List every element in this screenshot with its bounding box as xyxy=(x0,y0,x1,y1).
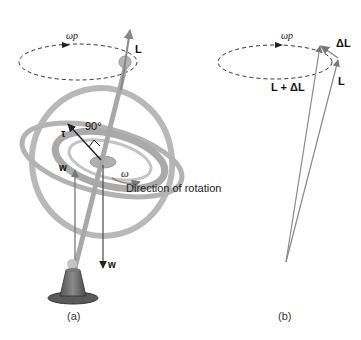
precession-arrow-b-icon xyxy=(275,42,283,48)
w-label-lower: w xyxy=(108,260,116,270)
precession-path-b xyxy=(218,45,332,79)
delta-L-label: ΔL xyxy=(336,38,351,49)
stand-cone xyxy=(60,270,86,296)
L-label-a: L xyxy=(135,44,142,55)
direction-of-rotation-label: Direction of rotation xyxy=(126,183,221,194)
tau-label: τ xyxy=(61,129,65,139)
angle-label: 90° xyxy=(85,121,102,132)
omega-p-label-a: ωp xyxy=(66,31,78,41)
panel-b xyxy=(218,42,338,262)
L-plus-delta-L-label: L + ΔL xyxy=(271,82,305,93)
w-label-upper: w xyxy=(59,163,67,173)
omega-label: ω xyxy=(121,168,129,179)
precession-arrow-icon xyxy=(62,42,70,48)
L-plus-dL-vector xyxy=(286,46,320,262)
caption-a: (a) xyxy=(67,311,80,322)
pivot-ball xyxy=(67,259,77,269)
gyroscope-diagram xyxy=(0,0,361,340)
caption-b: (b) xyxy=(278,311,291,322)
L-label-b: L xyxy=(338,76,345,87)
omega-p-label-b: ωp xyxy=(281,31,293,41)
panel-a xyxy=(15,30,190,304)
